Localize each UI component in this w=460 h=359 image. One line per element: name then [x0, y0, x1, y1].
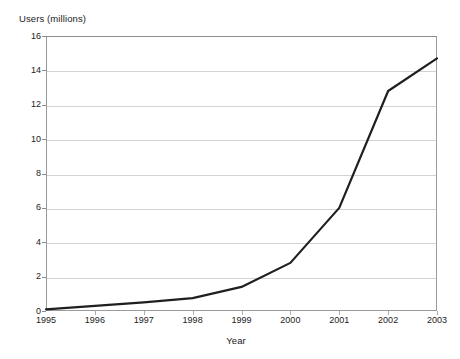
y-axis-tick-mark: [42, 311, 46, 312]
x-axis-tick-mark: [290, 311, 291, 315]
y-axis-tick-mark: [42, 105, 46, 106]
y-axis-tick-mark: [42, 242, 46, 243]
x-axis-tick-label: 1999: [220, 316, 264, 325]
x-axis-tick-mark: [193, 311, 194, 315]
x-axis-tick-mark: [95, 311, 96, 315]
y-axis-tick-label: 4: [1, 238, 41, 247]
x-axis-tick-label: 1995: [24, 316, 68, 325]
gridline-y: [47, 209, 436, 210]
gridline-y: [47, 278, 436, 279]
y-axis-tick-mark: [42, 208, 46, 209]
x-axis-tick-label: 2000: [268, 316, 312, 325]
y-axis-tick-mark: [42, 36, 46, 37]
gridline-y: [47, 175, 436, 176]
x-axis-tick-mark: [144, 311, 145, 315]
x-axis-tick-mark: [339, 311, 340, 315]
x-axis-tick-label: 2002: [366, 316, 410, 325]
y-axis-tick-label: 12: [1, 100, 41, 109]
plot-area: [46, 36, 437, 311]
y-axis-tick-label: 6: [1, 203, 41, 212]
y-axis-tick-label: 14: [1, 66, 41, 75]
line-chart: Users (millions) 02468101214161995199619…: [0, 0, 460, 359]
x-axis-tick-label: 1998: [171, 316, 215, 325]
x-axis-tick-mark: [242, 311, 243, 315]
x-axis-tick-label: 2003: [415, 316, 459, 325]
y-axis-tick-label: 0: [1, 307, 41, 316]
y-axis-tick-label: 2: [1, 272, 41, 281]
y-axis-tick-label: 8: [1, 169, 41, 178]
x-axis-tick-mark: [388, 311, 389, 315]
gridline-y: [47, 243, 436, 244]
x-axis-tick-mark: [437, 311, 438, 315]
y-axis-tick-label: 16: [1, 32, 41, 41]
y-axis-tick-mark: [42, 70, 46, 71]
y-axis-tick-mark: [42, 139, 46, 140]
gridline-y: [47, 140, 436, 141]
x-axis-tick-label: 1996: [73, 316, 117, 325]
gridline-y: [47, 71, 436, 72]
gridline-y: [47, 106, 436, 107]
y-axis-tick-label: 10: [1, 135, 41, 144]
y-axis-tick-mark: [42, 277, 46, 278]
x-axis-title: Year: [0, 335, 460, 346]
x-axis-tick-label: 2001: [317, 316, 361, 325]
y-axis-tick-mark: [42, 174, 46, 175]
y-axis-title: Users (millions): [19, 13, 86, 24]
x-axis-tick-label: 1997: [122, 316, 166, 325]
